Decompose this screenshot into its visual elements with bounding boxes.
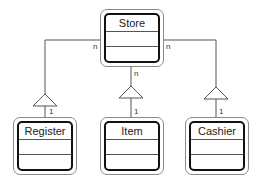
- class-item-operations: [106, 155, 158, 169]
- multiplicity-left-n: n: [93, 43, 97, 51]
- class-register-attributes: [19, 140, 71, 155]
- class-cashier-operations: [191, 155, 243, 169]
- class-item-body: Item: [104, 121, 160, 171]
- class-cashier-name: Cashier: [191, 123, 243, 140]
- triangle-icon-cashier: [204, 87, 228, 99]
- triangle-icon-register: [33, 94, 57, 106]
- class-cashier-attributes: [191, 140, 243, 155]
- class-register-name: Register: [19, 123, 71, 140]
- class-register-body: Register: [17, 121, 73, 171]
- class-register[interactable]: Register: [13, 117, 77, 175]
- class-item-name: Item: [106, 123, 158, 140]
- multiplicity-right-n: n: [166, 43, 170, 51]
- multiplicity-right-1: 1: [219, 108, 223, 116]
- triangle-icon-item: [119, 86, 143, 98]
- connector-store-cashier: [163, 40, 216, 87]
- class-store-name: Store: [106, 15, 158, 32]
- class-item[interactable]: Item: [100, 117, 164, 175]
- multiplicity-left-1: 1: [49, 108, 53, 116]
- class-store-operations: [106, 47, 158, 61]
- class-register-operations: [19, 155, 71, 169]
- class-store-attributes: [106, 32, 158, 47]
- class-cashier-body: Cashier: [189, 121, 245, 171]
- multiplicity-mid-1: 1: [134, 108, 138, 116]
- class-item-attributes: [106, 140, 158, 155]
- class-store[interactable]: Store: [100, 9, 164, 67]
- class-cashier[interactable]: Cashier: [185, 117, 249, 175]
- multiplicity-mid-n: n: [134, 70, 138, 78]
- class-store-body: Store: [104, 13, 160, 63]
